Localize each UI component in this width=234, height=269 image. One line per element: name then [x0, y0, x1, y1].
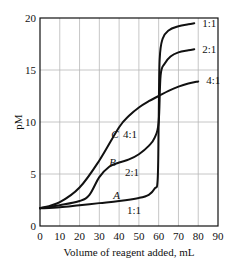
annotation-label: 2:1 — [202, 43, 216, 55]
y-tick-label: 10 — [25, 116, 37, 128]
annotation-label: 1:1 — [202, 17, 216, 29]
x-tick-label: 40 — [114, 230, 126, 242]
y-axis-ticks: 05101520 — [25, 12, 37, 232]
titration-chart: 05101520 0102030405060708090 C4:1B2:1A1:… — [0, 0, 234, 269]
y-axis-label: pM — [12, 114, 24, 130]
curve-annotations: C4:1B2:1A1:11:12:14:1 — [109, 17, 220, 216]
x-tick-label: 80 — [193, 230, 205, 242]
x-tick-label: 70 — [173, 230, 185, 242]
x-tick-label: 0 — [37, 230, 43, 242]
annotation-label: 4:1 — [123, 128, 137, 140]
y-tick-label: 20 — [25, 12, 37, 24]
x-tick-label: 60 — [153, 230, 165, 242]
x-axis-ticks: 0102030405060708090 — [37, 230, 224, 242]
y-tick-label: 5 — [31, 168, 37, 180]
annotation-label: 4:1 — [206, 74, 220, 86]
annotation-label: C — [111, 128, 119, 140]
x-tick-label: 90 — [213, 230, 225, 242]
x-tick-label: 50 — [133, 230, 145, 242]
x-axis-label: Volume of reagent added, mL — [64, 246, 195, 258]
x-tick-label: 10 — [54, 230, 66, 242]
annotation-label: B — [109, 156, 116, 168]
curve-a — [40, 23, 194, 208]
x-tick-label: 30 — [94, 230, 106, 242]
y-tick-label: 15 — [25, 64, 37, 76]
y-tick-label: 0 — [31, 220, 37, 232]
x-tick-label: 20 — [74, 230, 86, 242]
annotation-label: A — [112, 189, 120, 201]
annotation-label: 2:1 — [125, 166, 139, 178]
annotation-label: 1:1 — [127, 204, 141, 216]
